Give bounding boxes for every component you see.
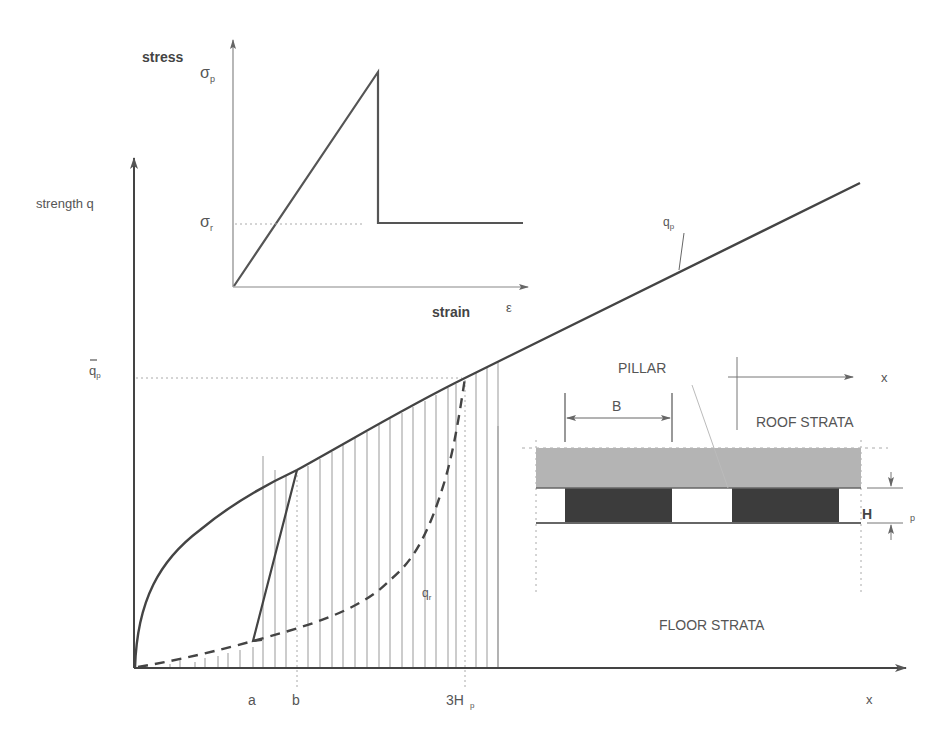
inset-ylabel: stress	[142, 49, 183, 65]
main-xlabel: x	[866, 692, 873, 707]
qp-leader-line	[679, 233, 684, 270]
height-sub-label: p	[910, 513, 915, 523]
pillar-label: PILLAR	[618, 360, 666, 376]
height-label: H	[862, 506, 872, 522]
tick-a-label: a	[248, 692, 256, 708]
pillar-2	[732, 488, 839, 523]
qp-curve-label: qp	[663, 215, 675, 231]
tick-3hp-label: 3Hp	[446, 692, 475, 710]
inset-x-symbol: ε	[506, 300, 512, 315]
pillar-section-diagram: B x PILLAR ROOF STRATA FLOOR STRATA H p	[522, 357, 915, 633]
qr-curve-label: qr	[422, 586, 432, 602]
pillar-strength-diagram: stress σp σr strain ε	[0, 0, 950, 746]
floor-strata-label: FLOOR STRATA	[659, 617, 765, 633]
tick-b-label: b	[292, 692, 300, 708]
inset-peak-label: σp	[200, 64, 215, 84]
inset-residual-label: σr	[200, 213, 213, 233]
pillar-1	[565, 488, 672, 523]
inset-stress-strain-chart: stress σp σr strain ε	[142, 40, 528, 320]
inset-xlabel: strain	[432, 304, 470, 320]
main-ylabel: strength q	[36, 196, 94, 211]
main-strength-chart: strength q qp qp qr a b 3Hp x	[36, 158, 906, 710]
section-x-label: x	[881, 370, 888, 385]
residual-strength-curve	[138, 378, 465, 667]
svg-text:qp: qp	[89, 363, 101, 380]
inset-stress-strain-curve	[234, 72, 523, 286]
roof-strata-block	[536, 448, 861, 488]
qbar-label: qp	[89, 360, 101, 380]
width-label: B	[612, 398, 621, 414]
roof-strata-label: ROOF STRATA	[756, 414, 854, 430]
